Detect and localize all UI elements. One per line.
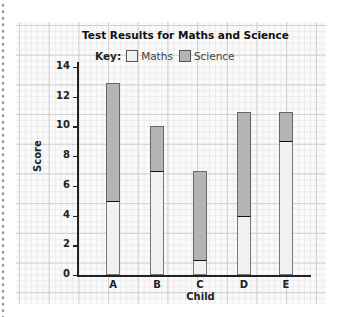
y-tick-label: 2 (46, 238, 70, 249)
bar-science-B (150, 126, 164, 171)
binding-holes (0, 0, 6, 317)
bar-maths-D (237, 216, 251, 275)
x-tick-label: A (103, 279, 123, 290)
legend-item-maths: Maths (141, 50, 173, 62)
legend: Key: Maths Science (95, 50, 241, 62)
bar-maths-C (193, 260, 207, 275)
y-axis-label: Score (32, 140, 43, 172)
y-tick-label: 10 (46, 119, 70, 130)
x-tick-label: D (234, 279, 254, 290)
bar-maths-A (106, 201, 120, 275)
x-tick-label: E (276, 279, 296, 290)
bar-maths-B (150, 171, 164, 275)
legend-label: Key: (95, 50, 121, 62)
bar-science-E (279, 112, 293, 142)
y-tick-label: 6 (46, 179, 70, 190)
legend-item-science: Science (194, 50, 235, 62)
legend-swatch-science (179, 50, 191, 62)
y-tick-label: 4 (46, 209, 70, 220)
bar-science-A (106, 83, 120, 200)
bar-science-D (237, 112, 251, 216)
x-axis (77, 275, 311, 277)
x-axis-label: Child (0, 291, 341, 302)
y-tick-label: 14 (46, 60, 70, 71)
y-axis (77, 62, 79, 276)
chart-title: Test Results for Maths and Science (0, 29, 341, 41)
bar-science-C (193, 171, 207, 260)
y-tick-label: 8 (46, 149, 70, 160)
x-tick-label: B (147, 279, 167, 290)
x-tick-label: C (190, 279, 210, 290)
bar-maths-E (279, 141, 293, 275)
y-tick-label: 0 (46, 268, 70, 279)
legend-swatch-maths (126, 50, 138, 62)
y-tick-label: 12 (46, 90, 70, 101)
